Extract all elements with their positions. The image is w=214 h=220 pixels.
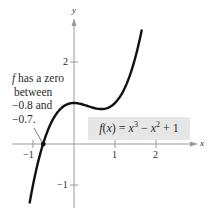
formula-mid: ) =	[112, 121, 129, 135]
xtick-label-neg1: −1	[23, 149, 34, 160]
ytick-label-2: 2	[63, 56, 68, 67]
formula-minus: −	[138, 121, 151, 135]
ann-line3: −0.8 and	[12, 99, 64, 113]
xtick-label-2: 2	[153, 149, 158, 160]
x-axis-label: x	[200, 138, 204, 149]
formula-tail: + 1	[160, 121, 179, 135]
annotation-pointer	[34, 128, 42, 142]
ytick-label-neg1: −1	[57, 179, 68, 190]
xtick-label-1: 1	[112, 149, 117, 160]
zero-point	[41, 142, 46, 147]
ann-line1: has a zero	[15, 72, 64, 84]
ann-line2: between	[12, 86, 64, 100]
function-formula-box: f(x) = x3 − x2 + 1	[88, 117, 190, 140]
ann-line4: −0.7.	[12, 113, 64, 127]
zero-annotation: f has a zero between −0.8 and −0.7.	[12, 72, 64, 126]
y-axis-arrow-icon	[72, 18, 77, 26]
y-axis-label: y	[72, 5, 76, 16]
x-axis-arrow-icon	[190, 142, 198, 147]
